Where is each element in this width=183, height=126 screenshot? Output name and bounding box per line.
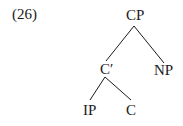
node-c: C: [126, 103, 136, 118]
edge-cp-np: [134, 26, 164, 63]
edge-cp-cbar: [106, 26, 134, 61]
node-cp: CP: [126, 8, 144, 23]
edge-cbar-ip: [90, 77, 105, 100]
node-np: NP: [154, 63, 173, 78]
edge-cbar-c: [105, 77, 131, 100]
node-ip: IP: [83, 103, 96, 118]
node-c-bar: C′: [100, 62, 113, 77]
